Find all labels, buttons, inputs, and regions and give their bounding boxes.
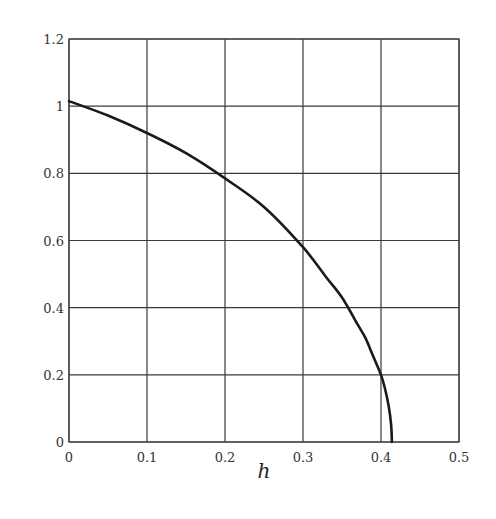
x-tick-label: 0 [65, 450, 73, 465]
data-series-curve [69, 101, 392, 442]
x-tick-label: 0.2 [215, 450, 236, 465]
x-axis-label: h [258, 459, 271, 483]
y-tick-label: 0.6 [43, 234, 64, 249]
grid-lines [69, 39, 459, 442]
x-tick-label: 0.3 [293, 450, 314, 465]
y-tick-label: 0.8 [43, 166, 64, 181]
y-tick-label: 0.2 [43, 368, 64, 383]
y-axis-ticks: 00.20.40.60.811.2 [43, 32, 64, 450]
x-tick-label: 0.4 [371, 450, 392, 465]
line-chart: 00.10.20.30.40.5 00.20.40.60.811.2 h [0, 0, 496, 519]
y-tick-label: 0 [56, 435, 64, 450]
y-tick-label: 1.2 [43, 32, 64, 47]
x-tick-label: 0.1 [137, 450, 158, 465]
x-tick-label: 0.5 [449, 450, 470, 465]
y-tick-label: 1 [56, 99, 64, 114]
y-tick-label: 0.4 [43, 301, 64, 316]
